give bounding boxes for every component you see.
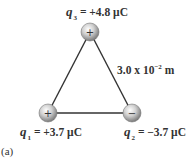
panel-label: (a) xyxy=(1,145,13,157)
charge-sphere-q1: + xyxy=(39,104,57,122)
minus-sign-icon: − xyxy=(128,108,136,119)
side-q3-q1 xyxy=(48,32,90,113)
charge-sphere-q2: − xyxy=(123,104,141,122)
plus-sign-icon: + xyxy=(86,27,94,38)
label-q2: q2 = −3.7 μC xyxy=(124,124,186,140)
plus-sign-icon: + xyxy=(44,108,52,119)
label-q1: q1 = +3.7 μC xyxy=(20,124,82,140)
side-length-label: 3.0 x 10−2 m xyxy=(117,64,174,76)
charge-sphere-q3: + xyxy=(81,23,99,41)
label-q3: q3 = +4.8 μC xyxy=(66,4,128,20)
